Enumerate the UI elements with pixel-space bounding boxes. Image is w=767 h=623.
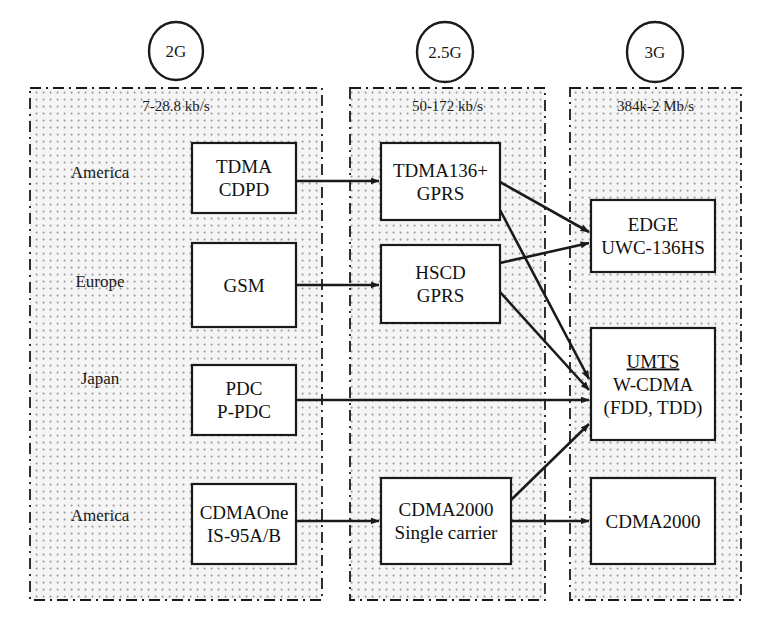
network-evolution-diagram: 7-28.8 kb/s50-172 kb/s384k-2 Mb/s Americ… <box>0 0 767 623</box>
era-label-2_5g: 2.5G <box>428 43 462 62</box>
node-label-gsm-line0: GSM <box>223 275 264 296</box>
region-label-america-tdma: America <box>71 163 130 182</box>
node-box-edge-uwc[interactable] <box>591 200 715 272</box>
node-box-hscd-gprs[interactable] <box>381 245 500 323</box>
region-label-europe: Europe <box>75 272 124 291</box>
node-cdma2000-3g[interactable]: CDMA2000 <box>591 478 715 564</box>
node-label-cdma2000-3g-line0: CDMA2000 <box>605 511 700 532</box>
node-label-edge-uwc-line1: UWC-136HS <box>601 237 704 258</box>
node-label-cdma2000-sc-line1: Single carrier <box>395 522 499 543</box>
node-label-pdc-ppdc-line1: P-PDC <box>217 401 271 422</box>
node-label-tdma136plus-line1: GPRS <box>417 183 465 204</box>
node-box-tdma-cdpd[interactable] <box>192 143 296 213</box>
node-gsm[interactable]: GSM <box>192 243 296 327</box>
node-pdc-ppdc[interactable]: PDCP-PDC <box>192 365 296 435</box>
node-label-tdma-cdpd-line1: CDPD <box>219 179 270 200</box>
node-label-edge-uwc-line0: EDGE <box>628 214 679 235</box>
node-label-cdmaone-line0: CDMAOne <box>200 502 289 523</box>
node-box-tdma136plus[interactable] <box>381 143 500 220</box>
diagram-canvas: 7-28.8 kb/s50-172 kb/s384k-2 Mb/s Americ… <box>0 0 767 623</box>
node-box-cdmaone[interactable] <box>192 484 296 564</box>
node-label-tdma136plus-line0: TDMA136+ <box>393 160 488 181</box>
node-label-umts-wcdma-line0: UMTS <box>627 351 680 372</box>
node-edge-uwc[interactable]: EDGEUWC-136HS <box>591 200 715 272</box>
era-badge-3g: 3G <box>627 22 683 82</box>
node-label-pdc-ppdc-line0: PDC <box>226 378 263 399</box>
node-tdma136plus[interactable]: TDMA136+GPRS <box>381 143 500 220</box>
node-box-pdc-ppdc[interactable] <box>192 365 296 435</box>
node-cdmaone[interactable]: CDMAOneIS-95A/B <box>192 484 296 564</box>
node-cdma2000-sc[interactable]: CDMA2000Single carrier <box>381 478 511 564</box>
era-badge-2_5g: 2.5G <box>417 22 473 82</box>
rate-label-2g: 7-28.8 kb/s <box>142 98 210 114</box>
node-umts-wcdma[interactable]: UMTSW-CDMA(FDD, TDD) <box>591 328 715 440</box>
era-badge-2g: 2G <box>149 22 203 80</box>
rate-label-2_5g: 50-172 kb/s <box>412 98 483 114</box>
era-circles-group: 2G2.5G3G <box>149 22 683 82</box>
node-tdma-cdpd[interactable]: TDMACDPD <box>192 143 296 213</box>
node-label-tdma-cdpd-line0: TDMA <box>216 156 272 177</box>
node-label-cdmaone-line1: IS-95A/B <box>207 525 281 546</box>
rate-label-3g: 384k-2 Mb/s <box>617 98 694 114</box>
region-label-america-cdma: America <box>71 506 130 525</box>
node-hscd-gprs[interactable]: HSCDGPRS <box>381 245 500 323</box>
region-label-japan: Japan <box>81 369 120 388</box>
node-label-hscd-gprs-line1: GPRS <box>417 285 465 306</box>
node-label-hscd-gprs-line0: HSCD <box>415 262 466 283</box>
node-label-umts-wcdma-line2: (FDD, TDD) <box>604 397 703 419</box>
era-label-2g: 2G <box>166 42 187 61</box>
node-label-umts-wcdma-line1: W-CDMA <box>613 374 694 395</box>
node-box-cdma2000-sc[interactable] <box>381 478 511 564</box>
node-label-cdma2000-sc-line0: CDMA2000 <box>398 499 493 520</box>
era-label-3g: 3G <box>645 43 666 62</box>
